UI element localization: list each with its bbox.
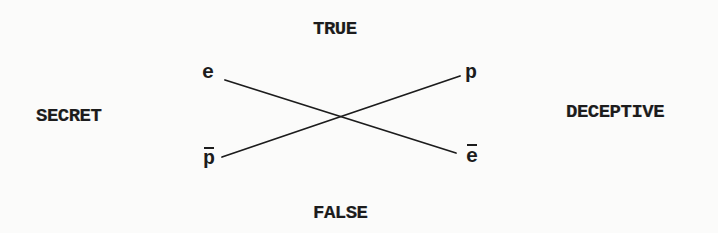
node-p: p [464,63,478,83]
node-not-e-symbol: e [465,147,479,167]
node-e: e [201,63,215,83]
label-true: TRUE [313,19,357,39]
node-not-p-symbol: p [202,149,216,169]
node-p-symbol: p [465,61,477,84]
label-false: FALSE [313,203,368,223]
diagram-canvas: TRUE FALSE SECRET DECEPTIVE e p p e [0,0,718,233]
label-secret: SECRET [36,106,101,126]
node-not-p: p [202,146,216,166]
node-e-symbol: e [202,61,214,84]
node-not-e: e [465,144,479,164]
edge-pbar-to-p [222,76,460,157]
label-deceptive: DECEPTIVE [566,102,664,122]
